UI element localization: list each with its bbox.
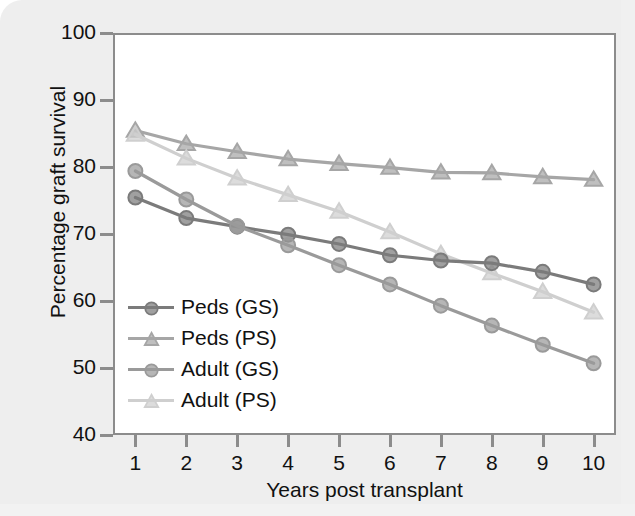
- data-point: [485, 256, 499, 270]
- legend-key: [128, 328, 174, 348]
- legend-item-adult-gs[interactable]: Adult (GS): [128, 356, 279, 382]
- data-point: [332, 258, 346, 272]
- y-tick-mark: [100, 233, 113, 236]
- legend-label: Peds (PS): [181, 326, 277, 350]
- y-tick-mark: [100, 99, 113, 102]
- chart-legend: Peds (GS)Peds (PS)Adult (GS)Adult (PS): [128, 294, 279, 413]
- data-point: [434, 254, 448, 268]
- x-tick-label: 1: [115, 452, 155, 473]
- panel-bottom-edge: [0, 504, 635, 516]
- x-tick-label: 9: [523, 452, 563, 473]
- data-point: [383, 248, 397, 262]
- y-tick-mark: [100, 300, 113, 303]
- x-tick-mark: [236, 435, 239, 447]
- x-tick-label: 4: [268, 452, 308, 473]
- data-point: [178, 150, 195, 164]
- data-point: [332, 237, 346, 251]
- x-tick-label: 3: [217, 452, 257, 473]
- data-point: [128, 164, 142, 178]
- data-point: [281, 238, 295, 252]
- x-tick-mark: [440, 435, 443, 447]
- y-tick-mark: [100, 434, 113, 437]
- x-tick-mark: [593, 435, 596, 447]
- series-adult-ps: [127, 126, 602, 318]
- legend-label: Adult (PS): [181, 388, 277, 412]
- y-tick-mark: [100, 166, 113, 169]
- series-line: [135, 131, 593, 180]
- y-tick-mark: [100, 32, 113, 35]
- legend-triangle-marker-icon: [143, 331, 160, 352]
- y-axis-title: Percentage graft survival: [46, 0, 70, 412]
- legend-item-peds-ps[interactable]: Peds (PS): [128, 325, 279, 351]
- x-tick-mark: [338, 435, 341, 447]
- x-tick-label: 6: [370, 452, 410, 473]
- legend-circle-marker-icon: [143, 362, 160, 383]
- data-point: [536, 265, 550, 279]
- x-tick-label: 10: [574, 452, 614, 473]
- x-tick-mark: [389, 435, 392, 447]
- data-point: [587, 277, 601, 291]
- series-line: [135, 135, 593, 313]
- x-tick-mark: [287, 435, 290, 447]
- legend-key: [128, 297, 174, 317]
- legend-item-peds-gs[interactable]: Peds (GS): [128, 294, 279, 320]
- x-axis-title: Years post transplant: [113, 478, 616, 502]
- data-point: [179, 193, 193, 207]
- y-tick-mark: [100, 367, 113, 370]
- y-tick-label: 40: [48, 423, 96, 444]
- data-point: [587, 356, 601, 370]
- legend-circle-marker-icon: [143, 300, 160, 321]
- series-peds-ps: [127, 122, 602, 185]
- data-point: [179, 211, 193, 225]
- data-point: [230, 219, 244, 233]
- legend-item-adult-ps[interactable]: Adult (PS): [128, 387, 279, 413]
- legend-label: Adult (GS): [181, 357, 279, 381]
- x-tick-label: 5: [319, 452, 359, 473]
- x-tick-mark: [134, 435, 137, 447]
- legend-key: [128, 359, 174, 379]
- data-point: [536, 338, 550, 352]
- data-point: [383, 277, 397, 291]
- x-tick-label: 2: [166, 452, 206, 473]
- legend-label: Peds (GS): [181, 295, 279, 319]
- x-tick-label: 7: [421, 452, 461, 473]
- x-tick-mark: [491, 435, 494, 447]
- x-tick-label: 8: [472, 452, 512, 473]
- legend-triangle-marker-icon: [143, 393, 160, 414]
- legend-key: [128, 390, 174, 410]
- data-point: [434, 299, 448, 313]
- data-point: [485, 319, 499, 333]
- data-point: [128, 191, 142, 205]
- panel-right-edge: [621, 0, 635, 516]
- figure-container: 100908070605040 Percentage graft surviva…: [0, 0, 635, 516]
- x-tick-mark: [542, 435, 545, 447]
- x-tick-mark: [185, 435, 188, 447]
